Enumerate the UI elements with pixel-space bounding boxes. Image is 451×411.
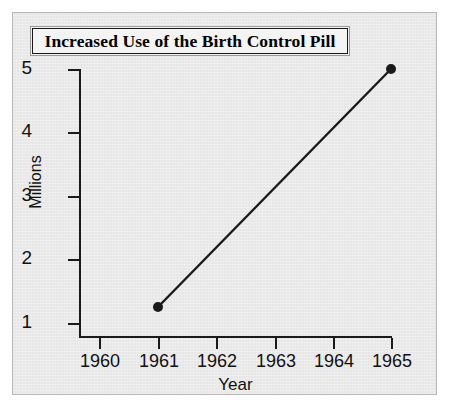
data-point-1961 (153, 302, 163, 312)
data-series-layer (13, 13, 438, 396)
figure-frame: Increased Use of the Birth Control Pill … (12, 12, 437, 395)
data-point-1965 (386, 64, 396, 74)
plot-area: 5 4 3 2 1 1960 1961 1962 1963 1964 1965 … (13, 13, 436, 394)
chart-page: Increased Use of the Birth Control Pill … (0, 0, 451, 411)
data-line-segment (158, 69, 391, 307)
